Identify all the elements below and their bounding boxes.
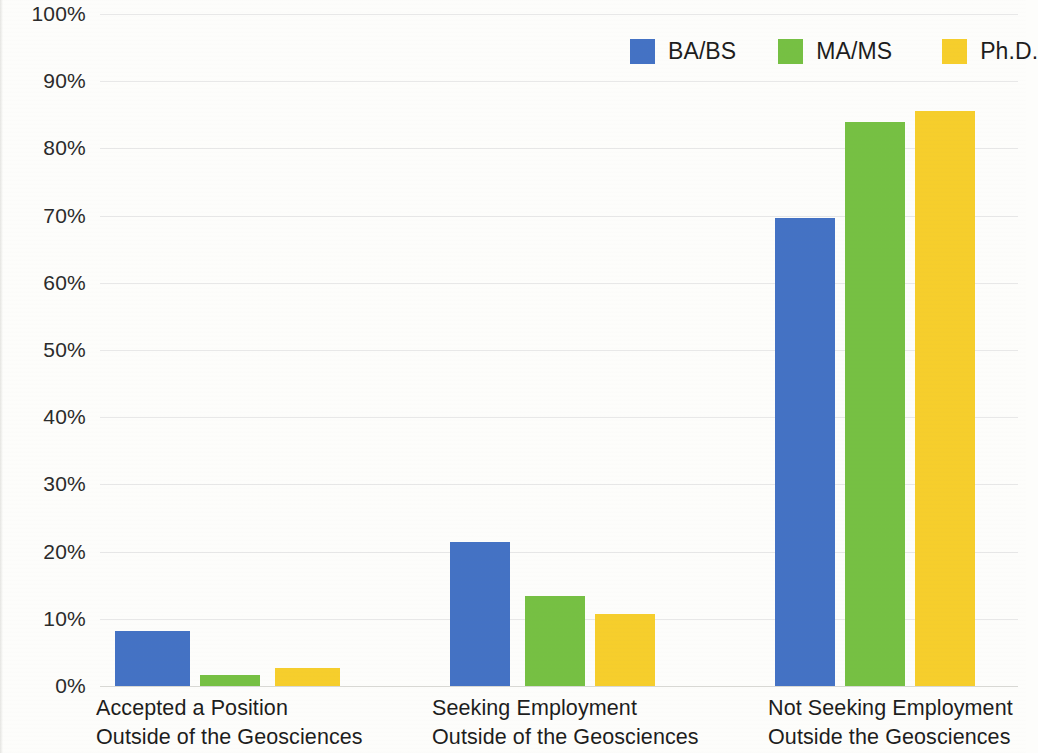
gridline-20: [100, 552, 1018, 553]
y-tick-label-60: 60%: [0, 271, 86, 295]
category-label-line: Outside of the Geosciences: [432, 723, 699, 752]
legend: BA/BSMA/MSPh.D.: [630, 38, 1038, 65]
gridline-90: [100, 81, 1018, 82]
category-label-line: Outside of the Geosciences: [96, 723, 363, 752]
gridline-10: [100, 619, 1018, 620]
legend-item-phd: Ph.D.: [942, 38, 1038, 65]
category-label-line: Outside the Geosciences: [768, 723, 1013, 752]
category-label-line: Seeking Employment: [432, 694, 699, 723]
category-label-line: Accepted a Position: [96, 694, 363, 723]
gridline-50: [100, 350, 1018, 351]
category-label-line: Not Seeking Employment: [768, 694, 1013, 723]
legend-label: BA/BS: [668, 38, 736, 65]
gridline-100: [100, 14, 1018, 15]
category-label-0: Accepted a PositionOutside of the Geosci…: [96, 694, 363, 751]
legend-swatch-icon: [778, 39, 803, 64]
gridline-0: [100, 686, 1018, 687]
gridline-40: [100, 417, 1018, 418]
y-tick-label-10: 10%: [0, 607, 86, 631]
x-axis-category-labels: Accepted a PositionOutside of the Geosci…: [0, 694, 1026, 753]
category-label-1: Seeking EmploymentOutside of the Geoscie…: [432, 694, 699, 751]
plot-area: [100, 14, 1018, 686]
legend-item-babs: BA/BS: [630, 38, 736, 65]
y-tick-label-50: 50%: [0, 338, 86, 362]
legend-item-mams: MA/MS: [778, 38, 892, 65]
gridline-70: [100, 216, 1018, 217]
y-tick-label-20: 20%: [0, 540, 86, 564]
y-tick-label-40: 40%: [0, 405, 86, 429]
gridline-30: [100, 484, 1018, 485]
y-tick-label-30: 30%: [0, 472, 86, 496]
legend-label: MA/MS: [816, 38, 892, 65]
y-tick-label-100: 100%: [0, 2, 86, 26]
y-tick-label-80: 80%: [0, 136, 86, 160]
gridline-60: [100, 283, 1018, 284]
gridline-80: [100, 148, 1018, 149]
legend-swatch-icon: [630, 39, 655, 64]
y-axis: 0%10%20%30%40%50%60%70%80%90%100%: [0, 14, 86, 686]
legend-label: Ph.D.: [980, 38, 1038, 65]
y-tick-label-90: 90%: [0, 69, 86, 93]
y-tick-label-70: 70%: [0, 204, 86, 228]
category-label-2: Not Seeking EmploymentOutside the Geosci…: [768, 694, 1013, 751]
legend-swatch-icon: [942, 39, 967, 64]
